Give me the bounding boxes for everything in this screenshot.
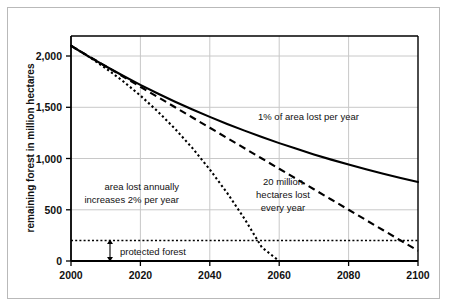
y-tick-label-0: 0 bbox=[56, 255, 62, 267]
arrow-head-up-icon bbox=[107, 240, 113, 245]
forest-projection-chart: 2,000 1,500 1,000 500 0 2000 2020 2040 2… bbox=[0, 0, 449, 307]
x-tick-label-2060: 2060 bbox=[268, 269, 292, 281]
curve-two-percent-escalating-loss bbox=[71, 46, 279, 261]
y-tick-label-500: 500 bbox=[44, 204, 62, 216]
annotation-twenty-million-line1: 20 million bbox=[263, 176, 303, 187]
y-tick-label-2000: 2,000 bbox=[36, 50, 62, 62]
annotation-twenty-million-line3: every year bbox=[261, 202, 305, 213]
x-tick-label-2040: 2040 bbox=[198, 269, 222, 281]
annotation-two-percent-line2: increases 2% per year bbox=[84, 194, 179, 205]
data-curves bbox=[71, 46, 418, 261]
y-axis-title: remaining forest in million hectares bbox=[25, 63, 36, 232]
y-tick-label-1000: 1,000 bbox=[36, 153, 62, 165]
protected-forest-arrow bbox=[107, 240, 113, 262]
annotation-protected-forest-label: protected forest bbox=[120, 246, 186, 257]
x-tick-label-2020: 2020 bbox=[129, 269, 153, 281]
y-tick-labels: 2,000 1,500 1,000 500 0 bbox=[36, 50, 62, 267]
annotation-twenty-million: 20 million hectares lost every year bbox=[256, 176, 310, 213]
y-tick-label-1500: 1,500 bbox=[36, 101, 62, 113]
annotation-one-percent-label: 1% of area lost per year bbox=[258, 111, 359, 122]
annotation-protected-forest: protected forest bbox=[120, 246, 186, 257]
annotation-two-percent: area lost annually increases 2% per year bbox=[84, 181, 179, 205]
chart-figure: 2,000 1,500 1,000 500 0 2000 2020 2040 2… bbox=[0, 0, 449, 307]
x-tick-label-2100: 2100 bbox=[406, 269, 430, 281]
x-tick-label-2080: 2080 bbox=[337, 269, 361, 281]
curve-twenty-million-loss bbox=[71, 46, 418, 251]
annotation-one-percent: 1% of area lost per year bbox=[258, 111, 359, 122]
x-tick-label-2000: 2000 bbox=[59, 269, 83, 281]
annotation-two-percent-line1: area lost annually bbox=[105, 181, 180, 192]
curve-one-percent-loss bbox=[71, 46, 418, 182]
annotation-twenty-million-line2: hectares lost bbox=[256, 189, 310, 200]
x-tick-labels: 2000 2020 2040 2060 2080 2100 bbox=[59, 269, 430, 281]
